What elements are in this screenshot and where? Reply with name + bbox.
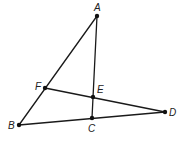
label-d: D <box>169 107 176 118</box>
point-d <box>163 110 167 114</box>
diagram-svg: ABCDEF <box>0 0 188 143</box>
geometry-diagram: ABCDEF <box>0 0 188 143</box>
label-e: E <box>97 84 104 95</box>
point-a <box>95 14 99 18</box>
segment-fd <box>45 88 165 112</box>
label-f: F <box>35 81 42 92</box>
point-b <box>17 123 21 127</box>
label-c: C <box>88 123 96 134</box>
segments-group <box>19 16 165 125</box>
segment-ab <box>19 16 97 125</box>
label-b: B <box>8 120 15 131</box>
point-f <box>43 86 47 90</box>
segment-ac <box>92 16 97 118</box>
point-c <box>90 116 94 120</box>
label-a: A <box>93 2 101 13</box>
point-e <box>91 95 95 99</box>
